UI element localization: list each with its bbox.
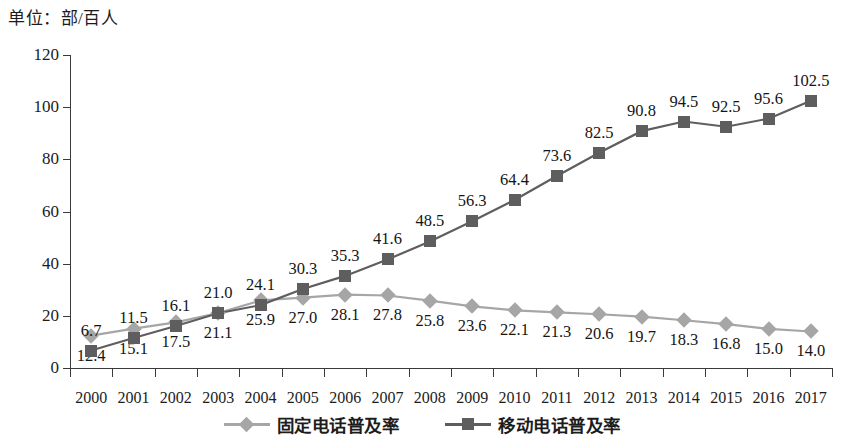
x-axis-tick-label: 2017 (795, 389, 827, 407)
data-label: 90.8 (627, 101, 656, 121)
data-label: 19.7 (627, 327, 656, 347)
x-axis-tick-label: 2008 (414, 389, 446, 407)
data-label: 16.8 (712, 334, 741, 354)
x-axis-tick (578, 368, 579, 377)
square-marker-icon (763, 113, 775, 125)
square-marker-icon (678, 116, 690, 128)
square-marker-icon (170, 320, 182, 332)
data-label: 17.5 (161, 332, 190, 352)
x-axis-tick-label: 2011 (541, 389, 572, 407)
x-axis-tick (663, 368, 664, 377)
data-label: 64.4 (500, 170, 529, 190)
data-label: 30.3 (288, 259, 317, 279)
data-label: 22.1 (500, 320, 529, 340)
legend-label-mobile: 移动电话普及率 (498, 412, 621, 437)
y-axis-tick-label: 0 (51, 358, 60, 378)
legend-label-fixed: 固定电话普及率 (277, 412, 400, 437)
y-axis-tick-label: 100 (34, 97, 60, 117)
y-axis-tick-label: 120 (34, 45, 60, 65)
x-axis-tick-label: 2004 (245, 389, 277, 407)
unit-label: 单位：部/百人 (8, 4, 118, 29)
x-axis-tick-label: 2006 (329, 389, 361, 407)
x-axis-tick (493, 368, 494, 377)
y-axis-tick (63, 316, 70, 317)
square-marker-icon (805, 95, 817, 107)
y-axis-tick (63, 264, 70, 265)
x-axis-tick (747, 368, 748, 377)
data-label: 28.1 (331, 305, 360, 325)
y-axis-tick-label: 80 (42, 149, 59, 169)
x-axis-tick (366, 368, 367, 377)
y-axis-tick (63, 212, 70, 213)
x-axis-tick (451, 368, 452, 377)
y-axis-tick (63, 159, 70, 160)
square-marker-icon (462, 418, 474, 430)
x-axis-tick (112, 368, 113, 377)
data-label: 24.1 (246, 275, 275, 295)
x-axis-tick-label: 2013 (626, 389, 658, 407)
square-marker-icon (85, 345, 97, 357)
x-axis-tick (409, 368, 410, 377)
x-axis-tick (705, 368, 706, 377)
x-axis-tick-label: 2009 (456, 389, 488, 407)
x-axis-tick-label: 2000 (75, 389, 107, 407)
data-label: 92.5 (712, 97, 741, 117)
data-label: 48.5 (415, 211, 444, 231)
square-marker-icon (509, 194, 521, 206)
data-label: 21.3 (542, 322, 571, 342)
square-marker-icon (551, 170, 563, 182)
chart-root: 单位：部/百人 02040608010012020002001200220032… (0, 0, 844, 443)
x-axis-tick-label: 2016 (753, 389, 785, 407)
y-axis-tick (63, 107, 70, 108)
x-axis-tick-label: 2005 (287, 389, 319, 407)
data-label: 14.0 (796, 341, 825, 361)
square-marker-icon (466, 215, 478, 227)
square-marker-icon (720, 121, 732, 133)
data-label: 73.6 (542, 146, 571, 166)
diamond-marker-icon (239, 417, 255, 433)
plot-area: 0204060801001202000200120022003200420052… (70, 55, 832, 368)
y-axis-tick-label: 40 (42, 254, 59, 274)
x-axis-tick (197, 368, 198, 377)
data-label: 82.5 (585, 123, 614, 143)
data-label: 21.0 (204, 283, 233, 303)
data-label: 20.6 (585, 324, 614, 344)
y-axis-tick (63, 368, 70, 369)
data-label: 15.0 (754, 339, 783, 359)
data-label: 18.3 (669, 330, 698, 350)
square-marker-icon (297, 283, 309, 295)
data-label: 25.9 (246, 310, 275, 330)
data-label: 25.8 (415, 311, 444, 331)
x-axis-tick (832, 368, 833, 377)
data-label: 94.5 (669, 92, 698, 112)
legend-line-fixed (224, 423, 270, 425)
legend-item-mobile[interactable]: 移动电话普及率 (445, 412, 621, 437)
x-axis-tick (790, 368, 791, 377)
y-axis-tick-label: 20 (42, 306, 59, 326)
chart-legend: 固定电话普及率 移动电话普及率 (0, 412, 844, 437)
x-axis-tick-label: 2012 (583, 389, 615, 407)
x-axis-tick-label: 2002 (160, 389, 192, 407)
data-label: 6.7 (81, 321, 102, 341)
x-axis-tick (620, 368, 621, 377)
x-axis-tick-label: 2015 (710, 389, 742, 407)
x-axis-tick (70, 368, 71, 377)
square-marker-icon (636, 125, 648, 137)
legend-item-fixed[interactable]: 固定电话普及率 (224, 412, 400, 437)
square-marker-icon (593, 147, 605, 159)
series-line-mobile (91, 101, 811, 351)
x-axis-tick (324, 368, 325, 377)
data-label: 11.5 (119, 308, 147, 328)
legend-line-mobile (445, 423, 491, 425)
x-axis-tick-label: 2010 (499, 389, 531, 407)
square-marker-icon (212, 307, 224, 319)
x-axis-tick-label: 2001 (118, 389, 150, 407)
data-label: 95.6 (754, 89, 783, 109)
data-label: 102.5 (792, 71, 829, 91)
series-line-fixed (91, 295, 811, 336)
x-axis-tick (239, 368, 240, 377)
y-axis-tick (63, 55, 70, 56)
square-marker-icon (255, 299, 267, 311)
square-marker-icon (382, 253, 394, 265)
square-marker-icon (424, 235, 436, 247)
